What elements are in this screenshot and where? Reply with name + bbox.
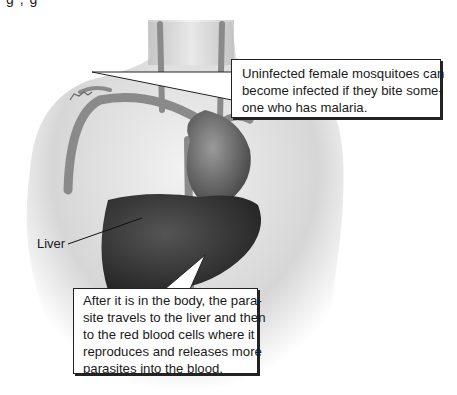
- callout-line: one who has malaria.: [242, 99, 430, 116]
- callout-mosquito-infection: Uninfected female mosquitoes can become …: [231, 59, 441, 118]
- liver-label: Liver: [37, 236, 65, 251]
- callout-parasite-lifecycle: After it is in the body, the para- site …: [73, 288, 258, 374]
- callout-line: After it is in the body, the para-: [83, 292, 248, 309]
- callout-line: become infected if they bite some-: [242, 82, 430, 99]
- callout-line: to the red blood cells where it: [83, 326, 248, 343]
- callout-line: parasites into the blood.: [83, 360, 248, 377]
- callout-line: reproduces and releases more: [83, 343, 248, 360]
- callout-line: site travels to the liver and then: [83, 309, 248, 326]
- callout-line: Uninfected female mosquitoes can: [242, 65, 430, 82]
